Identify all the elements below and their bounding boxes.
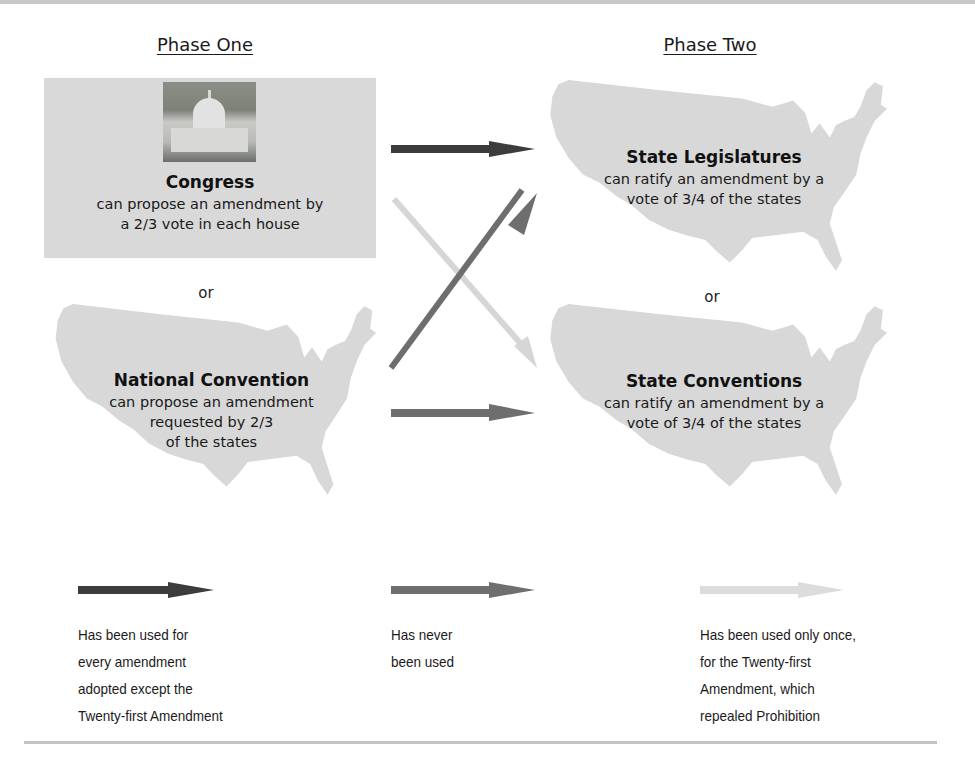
legend-light-line1: Has been used only once,	[700, 621, 856, 648]
phase-one-heading: Phase One	[100, 34, 310, 55]
legend-dark-line1: Has been used for	[78, 621, 223, 648]
national-convention-desc-line2: requested by 2/3	[44, 412, 379, 432]
legend-light-text: Has been used only once, for the Twenty-…	[700, 621, 856, 729]
arrow-congress-to-state-conventions	[394, 199, 537, 368]
state-conventions-desc-line1: can ratify an amendment by a	[538, 393, 890, 413]
legend-medium-arrow-icon	[391, 582, 535, 598]
state-conventions-desc-line2: vote of 3/4 of the states	[538, 413, 890, 433]
legend-dark-text: Has been used for every amendment adopte…	[78, 621, 223, 729]
congress-title: Congress	[44, 172, 376, 192]
legend-dark-arrow-icon	[78, 582, 214, 598]
arrow-congress-to-state-legislatures	[391, 141, 535, 157]
legend-light-line2: for the Twenty-first	[700, 648, 856, 675]
state-legislatures-title: State Legislatures	[538, 147, 890, 167]
legend-medium-line2: been used	[391, 648, 454, 675]
arrow-national-convention-to-state-legislatures	[391, 190, 537, 368]
legend-light-line3: Amendment, which	[700, 675, 856, 702]
legend-dark-line3: adopted except the	[78, 675, 223, 702]
legend-light-line4: repealed Prohibition	[700, 702, 856, 729]
congress-desc-line1: can propose an amendment by	[44, 194, 376, 214]
phase-two-heading: Phase Two	[610, 34, 810, 55]
national-convention-desc-line1: can propose an amendment	[44, 392, 379, 412]
bottom-rule	[24, 741, 937, 744]
national-convention-desc-line3: of the states	[44, 432, 379, 452]
arrow-national-convention-to-state-conventions	[391, 404, 535, 421]
legend-dark-line2: every amendment	[78, 648, 223, 675]
state-conventions-title: State Conventions	[538, 371, 890, 391]
legend-dark-line4: Twenty-first Amendment	[78, 702, 223, 729]
state-legislatures-desc-line1: can ratify an amendment by a	[538, 169, 890, 189]
legend-light-arrow-icon	[700, 582, 844, 598]
legend-medium-line1: Has never	[391, 621, 454, 648]
congress-desc-line2: a 2/3 vote in each house	[44, 214, 376, 234]
top-rule	[0, 0, 975, 4]
national-convention-title: National Convention	[44, 370, 379, 390]
state-legislatures-desc-line2: vote of 3/4 of the states	[538, 189, 890, 209]
capitol-building-image	[163, 82, 256, 162]
legend-medium-text: Has never been used	[391, 621, 454, 675]
